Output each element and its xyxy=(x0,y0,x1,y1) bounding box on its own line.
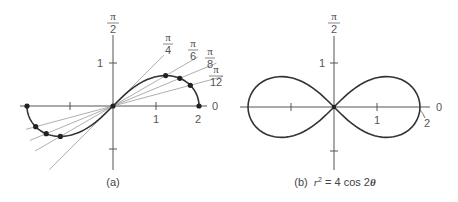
tick-label-a-x1: 1 xyxy=(153,113,159,125)
origin-point xyxy=(332,105,336,109)
polar-axis-label-a: 0 xyxy=(212,100,218,112)
plotted-point xyxy=(24,103,29,108)
angle-ray-line xyxy=(26,76,223,129)
ray-label-pi8-den: 8 xyxy=(207,58,213,70)
tick-label-a-x2: 2 xyxy=(195,113,201,125)
plotted-point xyxy=(177,76,182,81)
vertical-axis-label-den-b: 2 xyxy=(331,23,337,35)
tick-label-b-x2: 2 xyxy=(424,117,430,129)
plotted-point xyxy=(110,103,115,108)
panel-b: π 2 0 1 2 1 (b)r2 = 4 cos 2θ xyxy=(240,10,442,188)
ray-label-pi6-den: 6 xyxy=(190,50,196,62)
tick-label-b-y1: 1 xyxy=(319,57,325,69)
polar-axis-label-b: 0 xyxy=(436,101,442,113)
ray-label-pi8-num: π xyxy=(207,45,213,57)
plotted-point xyxy=(188,83,193,88)
plotted-point xyxy=(44,131,49,136)
plotted-point xyxy=(163,73,168,78)
polar-figure: π 2 0 1 2 1 π 4 π 6 π 8 π 12 (a) π 2 0 xyxy=(0,0,458,202)
ray-label-pi4-num: π xyxy=(165,31,171,43)
plotted-point xyxy=(58,134,63,139)
angle-rays xyxy=(26,55,223,170)
vertical-axis-label-num-a: π xyxy=(110,10,116,22)
ray-label-pi4-den: 4 xyxy=(165,44,171,56)
caption-b: (b)r2 = 4 cos 2θ xyxy=(294,176,376,188)
plotted-point xyxy=(33,124,38,129)
caption-a: (a) xyxy=(106,176,119,188)
plotted-point xyxy=(196,103,201,108)
pointer-arrow-icon xyxy=(420,110,425,118)
panel-a: π 2 0 1 2 1 π 4 π 6 π 8 π 12 (a) xyxy=(20,10,223,188)
ray-label-pi12-den: 12 xyxy=(210,76,222,88)
tick-label-b-x1: 1 xyxy=(374,114,380,126)
ray-label-pi12-num: π xyxy=(213,63,219,75)
vertical-axis-label-den-a: 2 xyxy=(110,23,116,35)
tick-label-a-y1: 1 xyxy=(97,57,103,69)
ray-label-pi6-num: π xyxy=(190,37,196,49)
angle-ray-line xyxy=(30,63,217,140)
vertical-axis-label-num-b: π xyxy=(331,10,337,22)
